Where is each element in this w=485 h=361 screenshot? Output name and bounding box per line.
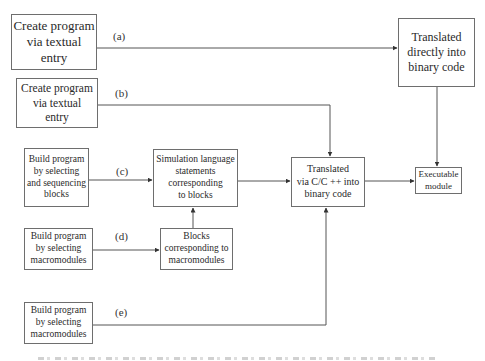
box-text-line: Build program — [29, 154, 85, 166]
source-box-a: Create program via textual entry — [11, 14, 97, 70]
box-text-line: binary code — [305, 188, 352, 201]
figure-caption-clipped — [38, 352, 438, 361]
box-text-line: statements — [175, 166, 215, 178]
box-text-line: entry — [41, 50, 68, 66]
box-text-line: Translated — [307, 163, 349, 176]
box-text-line: binary code — [408, 60, 464, 75]
source-box-e: Build program by selecting macromodules — [24, 302, 93, 344]
box-text-line: Executable — [419, 169, 459, 180]
box-text-line: Build program — [31, 231, 87, 243]
edge-label-a: (a) — [113, 30, 125, 42]
c-translator-box: Translated via C/C ++ into binary code — [291, 157, 365, 207]
edge-label-b: (b) — [115, 87, 128, 99]
box-text-line: by selecting — [36, 317, 82, 329]
source-box-d: Build program by selecting macromodules — [24, 228, 93, 270]
box-text-line: directly into — [407, 45, 465, 60]
box-text-line: blocks — [44, 189, 69, 201]
box-text-line: macromodules — [31, 255, 87, 267]
source-box-c: Build program by selecting and sequencin… — [24, 148, 89, 207]
direct-binary-translator-box: Translated directly into binary code — [398, 18, 475, 87]
macromodule-blocks-box: Blocks corresponding to macromodules — [160, 228, 233, 270]
box-text-line: corresponding — [168, 178, 222, 190]
box-text-line: Blocks — [183, 231, 209, 243]
box-text-line: via C/C ++ into — [297, 176, 360, 189]
simulation-statements-box: Simulation language statements correspon… — [153, 149, 238, 207]
box-text-line: module — [425, 181, 452, 192]
box-text-line: entry — [45, 110, 69, 124]
box-text-line: Create program — [13, 18, 94, 34]
box-text-line: and sequencing — [27, 178, 86, 190]
box-text-line: macromodules — [169, 255, 225, 267]
box-text-line: corresponding to — [164, 243, 228, 255]
edge-label-d: (d) — [115, 230, 128, 242]
edge-label-c: (c) — [116, 165, 128, 177]
box-text-line: Translated — [411, 30, 461, 45]
box-text-line: Simulation language — [156, 154, 234, 166]
box-text-line: Create program — [21, 81, 93, 95]
box-text-line: by selecting — [34, 166, 80, 178]
edge-label-e: (e) — [115, 306, 127, 318]
source-box-b: Create program via textual entry — [16, 78, 98, 128]
box-text-line: to blocks — [178, 190, 213, 202]
executable-module-box: Executable module — [415, 167, 462, 194]
box-text-line: macromodules — [31, 329, 87, 341]
box-text-line: via textual — [33, 96, 81, 110]
box-text-line: Build program — [31, 305, 87, 317]
box-text-line: via textual — [27, 34, 82, 50]
box-text-line: by selecting — [36, 243, 82, 255]
